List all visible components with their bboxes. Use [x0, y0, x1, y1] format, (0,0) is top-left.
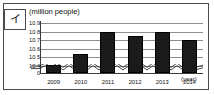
x-axis-unit-caption: (year) — [181, 76, 197, 83]
bar-slot — [128, 21, 143, 74]
y-tick-label: 10.7 — [2, 37, 40, 43]
bar-slot — [182, 21, 197, 74]
bar — [73, 54, 88, 73]
chart-figure: イ (million people) 10.910.810.710.610.51… — [0, 0, 214, 95]
y-tick-label: 10.6 — [2, 46, 40, 52]
x-tick-label: 2010 — [67, 79, 94, 86]
bar — [155, 32, 170, 73]
bar-slot — [46, 21, 61, 74]
y-tick-label: 10.5 — [2, 54, 40, 60]
bar — [46, 65, 61, 73]
y-axis-unit-caption: (million people) — [29, 7, 80, 16]
x-tick-label: 2012 — [122, 79, 149, 86]
bar — [128, 36, 143, 73]
x-tick-label: 2013 — [149, 79, 176, 86]
bar-slot — [73, 21, 88, 74]
x-axis-tick-labels: 200920102011201220132014 — [40, 76, 203, 86]
panel-label-text: イ — [10, 14, 21, 25]
x-tick-label: 2011 — [94, 79, 121, 86]
bar-slot — [100, 21, 115, 74]
y-axis-tick-labels: 10.910.810.710.610.510.40 — [0, 21, 40, 81]
y-tick-label: 10.4 — [2, 63, 40, 69]
bar-series — [40, 21, 203, 74]
y-tick-label: 0 — [2, 70, 40, 76]
bar-slot — [155, 21, 170, 74]
bar — [182, 40, 197, 73]
bar — [100, 32, 115, 73]
panel-label-box: イ — [4, 9, 26, 30]
x-tick-label: 2009 — [40, 79, 67, 86]
